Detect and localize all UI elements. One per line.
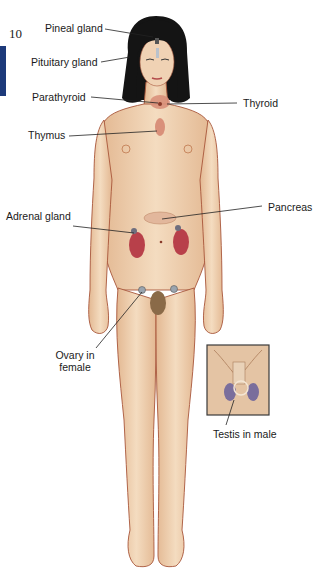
label-pancreas: Pancreas — [268, 201, 312, 213]
testis-right — [247, 383, 259, 401]
pituitary-gland — [156, 48, 159, 58]
kidney-right — [173, 229, 189, 255]
label-pituitary-gland: Pituitary gland — [31, 56, 98, 68]
label-ovary-line1: Ovary in — [50, 349, 100, 361]
body — [89, 82, 224, 567]
label-parathyroid: Parathyroid — [32, 91, 86, 103]
pineal-gland — [155, 38, 159, 44]
parathyroid — [158, 102, 162, 106]
label-pineal-gland: Pineal gland — [45, 22, 103, 34]
ovary-right — [171, 286, 178, 293]
label-testis: Testis in male — [213, 428, 277, 440]
thymus — [155, 118, 165, 136]
label-ovary: Ovary in female — [50, 349, 100, 373]
label-thymus: Thymus — [28, 129, 65, 141]
male-inset — [207, 345, 269, 415]
label-ovary-line2: female — [50, 361, 100, 373]
anatomy-figure — [0, 0, 313, 578]
label-thyroid: Thyroid — [243, 97, 278, 109]
label-adrenal-gland: Adrenal gland — [6, 210, 71, 222]
kidney-left — [129, 232, 145, 258]
